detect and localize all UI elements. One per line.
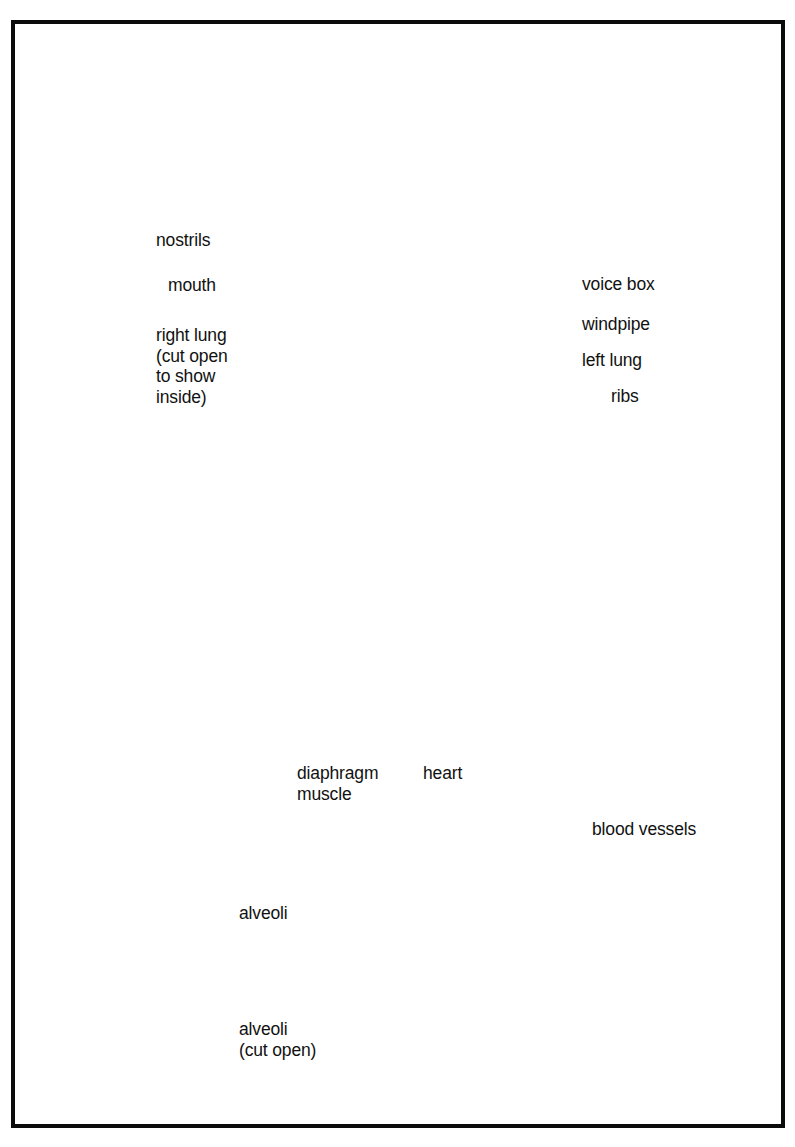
label-ribs: ribs — [611, 386, 639, 407]
label-left-lung: left lung — [582, 350, 642, 371]
label-right-lung: right lung (cut open to show inside) — [156, 325, 228, 407]
label-mouth: mouth — [168, 275, 216, 296]
label-heart: heart — [423, 763, 462, 784]
label-diaphragm: diaphragm muscle — [297, 763, 378, 804]
label-alveoli: alveoli — [239, 903, 288, 924]
label-alveoli-cut: alveoli (cut open) — [239, 1019, 316, 1060]
label-nostrils: nostrils — [156, 230, 210, 251]
figure-frame — [11, 20, 785, 1128]
label-blood-vessels: blood vessels — [592, 819, 696, 840]
label-voice-box: voice box — [582, 274, 655, 295]
label-windpipe: windpipe — [582, 314, 650, 335]
